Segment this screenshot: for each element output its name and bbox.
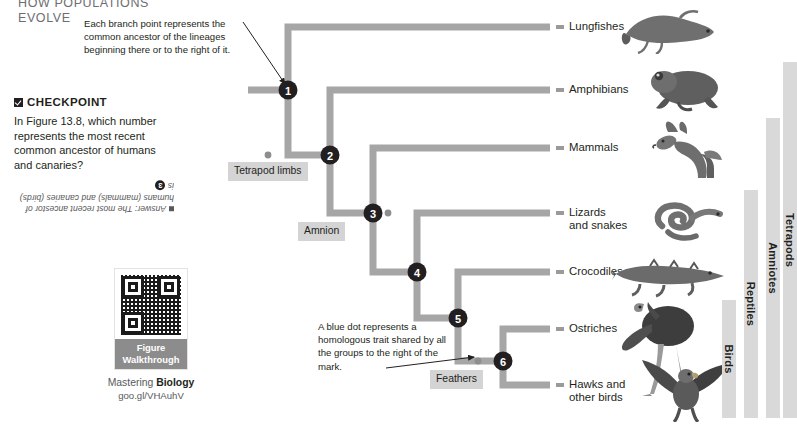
frog-illustration [648,62,724,112]
taxon-lizards-line-1: Lizards [569,206,606,218]
hawk-illustration [634,356,734,422]
trait-dot-tetrapod-limbs [265,152,272,159]
group-label-reptiles: Reptiles [745,282,757,326]
leader-line-branch-point [243,22,285,84]
trait-label-tetrapod-limbs: Tetrapod limbs [228,162,308,181]
taxon-tick-icon [556,211,564,215]
trait-dot-feathers [475,358,482,365]
taxon-tick-icon [556,270,564,274]
taxon-tick-icon [556,327,564,331]
crocodile-illustration [610,252,728,298]
taxon-tick-icon [556,25,564,29]
group-bar-birds: Birds [722,300,736,418]
trait-dot-amnion [385,210,392,217]
branch-node1-to-node2 [288,90,330,155]
branch-to-lungfishes [288,27,550,90]
tree-node-3[interactable]: 3 [364,204,383,223]
group-label-birds: Birds [723,344,735,373]
taxon-label-mammals: Mammals [556,141,618,154]
tree-node-1[interactable]: 1 [279,81,298,100]
wolf-illustration [650,118,726,180]
taxon-amphibians-line-1: Amphibians [569,83,629,95]
tree-node-2-label: 2 [327,150,333,162]
branch-to-crocodiles [458,272,550,318]
taxon-label-lizards-and-snakes: Lizards and snakes [556,206,627,233]
branch-to-mammals [373,148,550,213]
lungfish-illustration [618,4,718,54]
trait-label-feathers: Feathers [430,370,483,389]
tree-node-5-label: 5 [455,313,461,325]
tree-node-6[interactable]: 6 [494,352,513,371]
group-label-tetrapods: Tetrapods [784,213,796,267]
trait-label-amnion: Amnion [298,222,345,241]
tree-node-6-label: 6 [500,356,506,368]
group-bar-reptiles: Reptiles [744,190,758,418]
snake-illustration [648,190,728,246]
tree-node-4[interactable]: 4 [408,263,427,282]
taxon-label-amphibians: Amphibians [556,83,629,96]
group-bar-tetrapods: Tetrapods [783,62,797,418]
tree-node-3-label: 3 [370,208,376,220]
tree-node-1-label: 1 [285,85,291,97]
tree-node-4-label: 4 [414,267,421,279]
taxon-label-lungfishes: Lungfishes [556,20,624,33]
taxon-tick-icon [556,383,564,387]
taxon-tick-icon [556,88,564,92]
group-bar-amniotes: Amniotes [766,118,780,418]
group-label-amniotes: Amniotes [767,242,779,294]
taxon-tick-icon [556,146,564,150]
branch-node3-to-node4 [373,213,417,272]
branch-to-lizards-and-snakes [417,213,550,272]
taxon-lungfishes-line-1: Lungfishes [569,20,624,32]
branch-node2-to-node3 [330,155,373,213]
taxon-lizards-line-2: and snakes [569,219,627,231]
taxon-mammals-line-1: Mammals [569,141,618,153]
tree-node-2[interactable]: 2 [321,146,340,165]
tree-node-5[interactable]: 5 [449,309,468,328]
tree-branches [248,27,550,385]
